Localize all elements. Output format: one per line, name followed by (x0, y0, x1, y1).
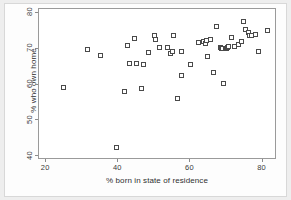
data-point (226, 44, 231, 49)
data-point (153, 37, 158, 42)
y-tick-mark (35, 48, 38, 49)
data-point (146, 50, 151, 55)
data-point (265, 28, 270, 33)
x-tick-label: 20 (32, 163, 58, 172)
data-point (125, 43, 130, 48)
x-tick-mark (189, 159, 190, 162)
x-tick-label: 60 (176, 163, 202, 172)
data-point (211, 70, 216, 75)
x-tick-mark (262, 159, 263, 162)
x-tick-label: 80 (249, 163, 275, 172)
x-tick-label: 40 (104, 163, 130, 172)
data-points-layer (39, 9, 275, 158)
data-point (122, 89, 127, 94)
y-tick-label: 60 (25, 73, 34, 95)
x-axis-title: % born in state of residence (38, 176, 276, 185)
data-point (157, 45, 162, 50)
data-point (127, 61, 132, 66)
data-point (165, 45, 170, 50)
plot-area (38, 8, 276, 159)
data-point (170, 49, 175, 54)
y-tick-mark (35, 119, 38, 120)
y-tick-label: 80 (25, 1, 34, 23)
data-point (139, 86, 144, 91)
data-point (241, 19, 246, 24)
data-point (179, 73, 184, 78)
data-point (141, 62, 146, 67)
data-point (214, 24, 219, 29)
y-tick-mark (35, 84, 38, 85)
x-tick-mark (45, 159, 46, 162)
data-point (85, 47, 90, 52)
scatter-plot-figure: % born in state of residence % who own h… (0, 0, 291, 200)
y-tick-label: 70 (25, 37, 34, 59)
y-tick-mark (35, 12, 38, 13)
data-point (221, 81, 226, 86)
data-point (208, 37, 213, 42)
data-point (179, 49, 184, 54)
data-point (229, 35, 234, 40)
data-point (61, 85, 66, 90)
x-tick-mark (117, 159, 118, 162)
data-point (175, 96, 180, 101)
data-point (132, 36, 137, 41)
data-point (239, 39, 244, 44)
data-point (171, 33, 176, 38)
y-tick-label: 40 (25, 144, 34, 166)
data-point (253, 32, 258, 37)
y-tick-label: 50 (25, 108, 34, 130)
data-point (98, 53, 103, 58)
y-tick-mark (35, 155, 38, 156)
data-point (188, 62, 193, 67)
data-point (134, 61, 139, 66)
data-point (205, 54, 210, 59)
data-point (114, 145, 119, 150)
data-point (256, 49, 261, 54)
